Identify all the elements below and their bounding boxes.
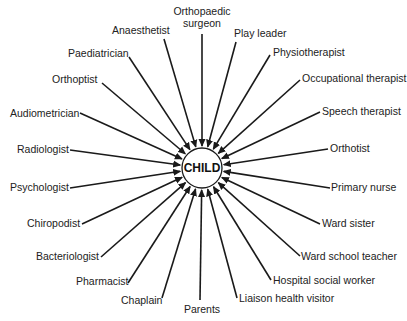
arrow-to-child <box>129 57 190 150</box>
role-label: Chiropodist <box>27 217 80 229</box>
child-label: CHILD <box>184 161 221 175</box>
role-label: Ward school teacher <box>301 250 397 262</box>
role-label: Chaplain <box>121 294 163 306</box>
role-label: Hospital social worker <box>273 274 376 286</box>
arrow-to-child <box>222 112 320 159</box>
role-label: Speech therapist <box>322 105 401 117</box>
role-label: Orthoptist <box>52 73 98 85</box>
arrow-to-child <box>164 39 196 147</box>
role-label: Ward sister <box>322 217 375 229</box>
multidisciplinary-team-diagram: OrthopaedicsurgeonAnaesthetistPlay leade… <box>0 0 407 321</box>
role-label: Bacteriologist <box>36 250 99 262</box>
arrow-to-child <box>218 183 300 256</box>
arrow-to-child <box>208 189 237 298</box>
arrow-to-child <box>218 80 300 153</box>
role-label: Paediatrician <box>68 47 129 59</box>
child-node: CHILD <box>182 148 222 188</box>
arrow-to-child <box>80 113 182 159</box>
role-label: Anaesthetist <box>112 24 170 36</box>
arrow-to-child <box>214 187 271 280</box>
role-label: Pharmacist <box>76 275 129 287</box>
role-label: Radiologist <box>17 143 69 155</box>
role-label: Liaison health visitor <box>239 292 335 304</box>
role-label: Audiometrician <box>10 107 80 119</box>
role-label: Orthotist <box>330 142 370 154</box>
arrow-to-child <box>224 149 328 165</box>
role-label: Parents <box>184 303 220 315</box>
role-label: Play leader <box>234 27 287 39</box>
arrow-to-child <box>101 183 185 257</box>
role-label: Primary nurse <box>331 181 397 193</box>
arrow-to-child <box>208 42 236 147</box>
role-label: Orthopaedic <box>173 5 230 17</box>
arrow-to-child <box>102 83 185 154</box>
role-label-line2: surgeon <box>183 17 221 29</box>
arrow-to-child <box>213 55 270 149</box>
role-label: Psychologist <box>10 181 69 193</box>
arrow-to-child <box>200 190 202 300</box>
role-label: Physiotherapist <box>273 46 345 58</box>
arrow-to-child <box>70 150 180 165</box>
role-label: Occupational therapist <box>302 72 407 84</box>
